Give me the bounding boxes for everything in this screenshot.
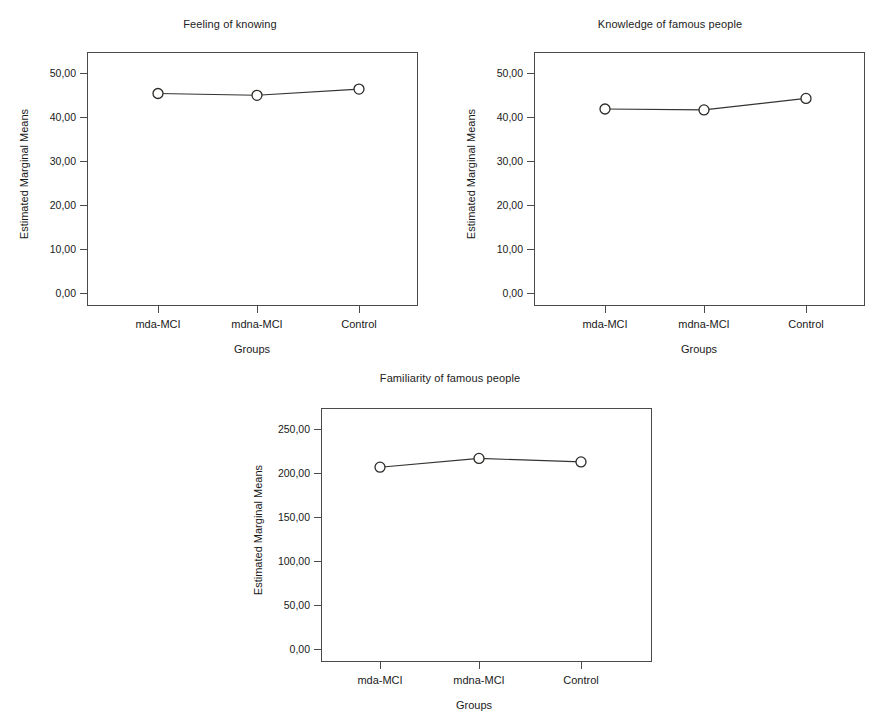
x-tick-label: mda-MCI	[135, 318, 180, 330]
x-axis-label: Groups	[456, 699, 492, 711]
x-tick-mark	[704, 306, 705, 313]
x-axis-label: Groups	[681, 343, 717, 355]
panel-knowledge-of-famous-people: Knowledge of famous people Estimated Mar…	[440, 18, 880, 363]
x-tick-mark	[479, 662, 480, 669]
x-axis-label: Groups	[234, 343, 270, 355]
data-point-marker	[354, 84, 364, 94]
figure-page: { "figure": { "background": "#ffffff", "…	[0, 0, 880, 723]
x-tick-label: Control	[341, 318, 376, 330]
x-tick-label: mda-MCI	[357, 674, 402, 686]
data-point-marker	[600, 104, 610, 114]
series-layer	[220, 372, 660, 717]
data-point-marker	[801, 93, 811, 103]
x-tick-label: mdna-MCI	[453, 674, 504, 686]
panel-feeling-of-knowing: Feeling of knowing Estimated Marginal Me…	[0, 18, 440, 363]
data-point-marker	[474, 453, 484, 463]
x-tick-label: mdna-MCI	[678, 318, 729, 330]
series-layer	[0, 18, 440, 363]
x-tick-mark	[380, 662, 381, 669]
data-point-marker	[699, 105, 709, 115]
x-tick-label: mda-MCI	[582, 318, 627, 330]
x-tick-label: Control	[788, 318, 823, 330]
x-tick-mark	[581, 662, 582, 669]
data-point-marker	[153, 89, 163, 99]
x-tick-label: mdna-MCI	[231, 318, 282, 330]
x-tick-mark	[605, 306, 606, 313]
x-tick-mark	[257, 306, 258, 313]
x-tick-mark	[359, 306, 360, 313]
x-tick-mark	[806, 306, 807, 313]
data-point-marker	[576, 457, 586, 467]
series-layer	[440, 18, 880, 363]
data-point-marker	[375, 462, 385, 472]
x-tick-mark	[158, 306, 159, 313]
x-tick-label: Control	[563, 674, 598, 686]
data-point-marker	[252, 90, 262, 100]
panel-familiarity-of-famous-people: Familiarity of famous people Estimated M…	[220, 372, 660, 717]
